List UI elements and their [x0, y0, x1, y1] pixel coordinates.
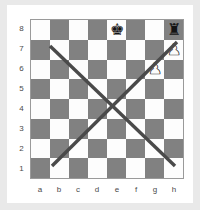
black-king[interactable]: ♚: [107, 20, 126, 40]
empty-cell: [31, 79, 50, 99]
empty-cell: [164, 139, 183, 159]
file-label-b: b: [49, 184, 69, 196]
empty-cell: [69, 99, 88, 119]
file-label-a: a: [30, 184, 50, 196]
empty-cell: [145, 20, 164, 40]
empty-cell: [69, 60, 88, 80]
rank-label-6: 6: [15, 59, 28, 79]
empty-cell: [31, 158, 50, 178]
white-pawn-glyph: ♟: [148, 61, 162, 77]
chess-diagram: 8 7 6 5 4 3 2 1 a b c d e f g h ♚♜♟♟: [7, 5, 193, 203]
diagram-card: 8 7 6 5 4 3 2 1 a b c d e f g h ♚♜♟♟: [7, 5, 193, 203]
empty-cell: [50, 99, 69, 119]
empty-cell: [88, 158, 107, 178]
empty-cell: [50, 139, 69, 159]
black-rook[interactable]: ♜: [164, 20, 183, 40]
empty-cell: [88, 60, 107, 80]
file-label-d: d: [87, 184, 107, 196]
black-rook-glyph: ♜: [167, 22, 181, 38]
screenshot-root: 8 7 6 5 4 3 2 1 a b c d e f g h ♚♜♟♟: [0, 0, 200, 210]
file-label-g: g: [145, 184, 165, 196]
empty-cell: [126, 20, 145, 40]
empty-cell: [69, 79, 88, 99]
board-pieces: ♚♜♟♟: [31, 20, 183, 178]
rank-label-7: 7: [15, 39, 28, 59]
empty-cell: [126, 60, 145, 80]
white-pawn[interactable]: ♟: [145, 60, 164, 80]
empty-cell: [88, 119, 107, 139]
empty-cell: [107, 79, 126, 99]
empty-cell: [145, 99, 164, 119]
empty-cell: [50, 20, 69, 40]
rank-label-3: 3: [15, 119, 28, 139]
empty-cell: [69, 20, 88, 40]
empty-cell: [69, 40, 88, 60]
rank-label-4: 4: [15, 99, 28, 119]
chess-board[interactable]: ♚♜♟♟: [30, 19, 184, 179]
empty-cell: [88, 139, 107, 159]
white-pawn-glyph: ♟: [167, 42, 181, 58]
empty-cell: [126, 99, 145, 119]
empty-cell: [126, 119, 145, 139]
rank-label-8: 8: [15, 19, 28, 39]
file-label-f: f: [126, 184, 146, 196]
empty-cell: [126, 139, 145, 159]
file-label-h: h: [164, 184, 184, 196]
empty-cell: [107, 158, 126, 178]
empty-cell: [126, 79, 145, 99]
empty-cell: [164, 79, 183, 99]
rank-label-1: 1: [15, 159, 28, 179]
empty-cell: [145, 158, 164, 178]
empty-cell: [164, 119, 183, 139]
empty-cell: [69, 139, 88, 159]
empty-cell: [145, 79, 164, 99]
empty-cell: [164, 60, 183, 80]
empty-cell: [50, 158, 69, 178]
empty-cell: [31, 99, 50, 119]
white-pawn[interactable]: ♟: [164, 40, 183, 60]
empty-cell: [88, 20, 107, 40]
empty-cell: [31, 119, 50, 139]
empty-cell: [145, 40, 164, 60]
empty-cell: [31, 20, 50, 40]
empty-cell: [50, 119, 69, 139]
empty-cell: [31, 40, 50, 60]
empty-cell: [107, 119, 126, 139]
empty-cell: [107, 99, 126, 119]
empty-cell: [50, 40, 69, 60]
empty-cell: [126, 40, 145, 60]
empty-cell: [88, 99, 107, 119]
empty-cell: [126, 158, 145, 178]
empty-cell: [88, 40, 107, 60]
empty-cell: [31, 139, 50, 159]
empty-cell: [50, 79, 69, 99]
empty-cell: [31, 60, 50, 80]
empty-cell: [107, 60, 126, 80]
empty-cell: [164, 99, 183, 119]
empty-cell: [88, 79, 107, 99]
empty-cell: [145, 119, 164, 139]
empty-cell: [50, 60, 69, 80]
empty-cell: [69, 158, 88, 178]
rank-label-5: 5: [15, 79, 28, 99]
file-label-e: e: [107, 184, 127, 196]
rank-label-2: 2: [15, 139, 28, 159]
black-king-glyph: ♚: [110, 22, 124, 38]
empty-cell: [69, 119, 88, 139]
empty-cell: [107, 40, 126, 60]
empty-cell: [164, 158, 183, 178]
empty-cell: [145, 139, 164, 159]
empty-cell: [107, 139, 126, 159]
file-label-c: c: [68, 184, 88, 196]
